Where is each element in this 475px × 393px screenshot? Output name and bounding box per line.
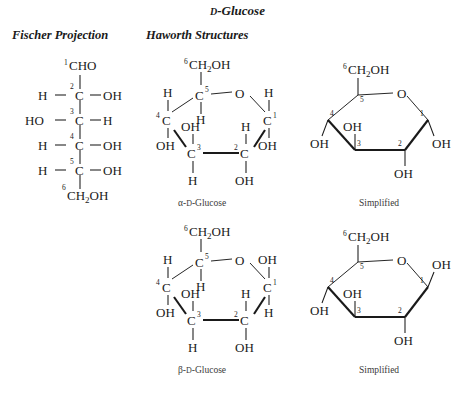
beta-ring-c2: C — [240, 313, 249, 328]
beta-c6-number: 6 — [184, 224, 188, 233]
alpha-simple-c1-number: 1 — [420, 109, 424, 118]
fischer-c2-left: H — [38, 88, 47, 103]
haworth-alpha-simplified-structure: O 5 4 3 2 1 6 CH2OH OH OH OH OH — [310, 58, 450, 188]
alpha-c4-number: 4 — [156, 111, 160, 120]
alpha-ring-c2: C — [240, 146, 249, 161]
alpha-simple-c1-oh: OH — [432, 136, 451, 151]
beta-simple-c4-number: 4 — [330, 276, 334, 285]
fischer-c2-right: OH — [103, 88, 122, 103]
caption-alpha-prefix: α- — [178, 198, 186, 208]
alpha-simple-c4-number: 4 — [330, 109, 334, 118]
alpha-ring-c1: C — [263, 113, 272, 128]
beta-simple-c2-oh: OH — [394, 333, 413, 348]
alpha-c3-number: 3 — [197, 143, 201, 152]
alpha-c6-number: 6 — [184, 57, 188, 66]
beta-c4-up-h: H — [163, 252, 172, 267]
alpha-ring-c4: C — [162, 113, 171, 128]
alpha-simple-c3-oh: OH — [343, 119, 362, 134]
fischer-c4-right: OH — [103, 138, 122, 153]
beta-ring-c3: C — [187, 313, 196, 328]
fischer-c1-number: 1 — [64, 58, 68, 67]
alpha-c2-number: 2 — [234, 143, 238, 152]
beta-simple-c1-number: 1 — [420, 276, 424, 285]
alpha-simple-c4-oh: OH — [310, 136, 329, 151]
diagram-canvas: D-Glucose Fischer Projection Haworth Str… — [0, 0, 475, 393]
fischer-c6-number: 6 — [62, 183, 66, 192]
alpha-simple-c3-number: 3 — [357, 139, 361, 148]
alpha-c2-down-oh: OH — [235, 173, 254, 188]
fischer-c5-right: OH — [103, 163, 122, 178]
fischer-c2-label: C — [75, 88, 84, 103]
alpha-c5-up-ch2oh: CH2OH — [189, 57, 230, 74]
fischer-c1-label: CHO — [69, 58, 96, 73]
fischer-c5-number: 5 — [70, 157, 74, 166]
alpha-ring-c5: C — [195, 88, 204, 103]
alpha-c2-up-h: H — [241, 119, 250, 134]
beta-ring-oxygen: O — [235, 253, 244, 268]
heading-fischer-projection: Fischer Projection — [12, 28, 108, 43]
beta-simple-c6-number: 6 — [343, 229, 347, 238]
fischer-c6-label: CH2OH — [67, 188, 108, 205]
fischer-c3-right: H — [103, 113, 112, 128]
beta-c5-up-ch2oh: CH2OH — [189, 224, 230, 241]
beta-simple-c3-number: 3 — [357, 306, 361, 315]
beta-ring-c5: C — [195, 255, 204, 270]
caption-beta-simplified: Simplified — [359, 365, 399, 375]
fischer-c4-left: H — [38, 138, 47, 153]
haworth-beta-d-glucose-structure: C 5 O C 1 C 2 C 3 C 4 6 CH2OH H H OH OH … — [146, 225, 296, 365]
alpha-simple-c6-number: 6 — [343, 62, 347, 71]
alpha-c3-down-h: H — [188, 173, 197, 188]
alpha-c1-down-oh: OH — [258, 138, 277, 153]
beta-c1-down-h: H — [264, 305, 273, 320]
beta-c2-down-oh: OH — [235, 340, 254, 355]
title-rest: -Glucose — [217, 3, 265, 18]
haworth-alpha-d-glucose-structure: C 5 O C 1 C 2 C 3 C 4 6 CH2OH H H OH OH … — [146, 58, 296, 198]
caption-alpha-simplified: Simplified — [359, 198, 399, 208]
alpha-ring-oxygen: O — [235, 86, 244, 101]
beta-c3-up-oh: OH — [181, 286, 200, 301]
beta-c1-up-oh: OH — [258, 252, 277, 267]
fischer-c3-label: C — [75, 113, 84, 128]
beta-c3-number: 3 — [197, 310, 201, 319]
fischer-c3-left: HO — [25, 113, 44, 128]
beta-simple-c2-number: 2 — [398, 306, 402, 315]
caption-beta-d-glucose: β-D-Glucose — [178, 365, 226, 375]
fischer-c3-number: 3 — [70, 107, 74, 116]
alpha-simple-c5-number: 5 — [360, 95, 364, 104]
beta-c5-number: 5 — [205, 252, 209, 261]
fischer-c5-label: C — [75, 163, 84, 178]
beta-c4-down-oh: OH — [156, 305, 175, 320]
beta-simple-c1-oh: OH — [432, 257, 451, 272]
alpha-simple-c2-number: 2 — [398, 139, 402, 148]
beta-simple-c5-ch2oh: CH2OH — [348, 229, 389, 246]
beta-c3-down-h: H — [188, 340, 197, 355]
beta-ring-c1: C — [263, 280, 272, 295]
alpha-simple-ring-oxygen: O — [397, 86, 406, 101]
beta-c2-number: 2 — [234, 310, 238, 319]
alpha-c4-down-oh: OH — [156, 138, 175, 153]
alpha-simple-c5-ch2oh: CH2OH — [348, 62, 389, 79]
heading-haworth-structures: Haworth Structures — [146, 28, 248, 43]
fischer-projection-structure: 1 CHO H 2 C OH HO 3 C H H 4 C OH H 5 C O… — [18, 56, 142, 204]
alpha-c4-up-h: H — [163, 85, 172, 100]
fischer-c5-left: H — [38, 163, 47, 178]
beta-ring-c4: C — [162, 280, 171, 295]
beta-c2-up-h: H — [241, 286, 250, 301]
alpha-c5-number: 5 — [205, 85, 209, 94]
caption-beta-prefix: β- — [178, 365, 186, 375]
caption-alpha-d-glucose: α-D-Glucose — [178, 198, 226, 208]
fischer-c2-number: 2 — [70, 82, 74, 91]
beta-c1-number: 1 — [273, 278, 277, 287]
alpha-ring-c3: C — [187, 146, 196, 161]
beta-simple-c4-oh: OH — [310, 303, 329, 318]
alpha-c3-up-oh: OH — [181, 119, 200, 134]
haworth-beta-simplified-structure: O 5 4 3 2 1 6 CH2OH OH OH OH OH — [310, 225, 450, 355]
page-title: D-Glucose — [0, 3, 475, 19]
fischer-c4-label: C — [75, 138, 84, 153]
caption-alpha-rest: -Glucose — [192, 198, 226, 208]
fischer-c4-number: 4 — [70, 132, 74, 141]
beta-c4-number: 4 — [156, 278, 160, 287]
alpha-simple-c2-oh: OH — [394, 166, 413, 181]
caption-beta-rest: -Glucose — [192, 365, 226, 375]
beta-simple-c3-oh: OH — [343, 286, 362, 301]
